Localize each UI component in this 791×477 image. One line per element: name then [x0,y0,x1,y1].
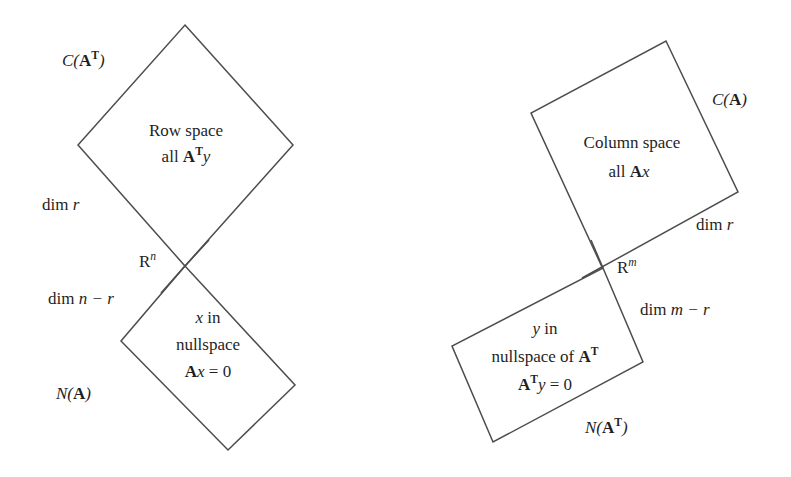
nullspace-A-line3: Ax = 0 [185,362,231,382]
row-space-shape [78,25,293,266]
left-top-shape-label: C(AT) [62,51,105,71]
left-dim-n-minus-r-label: dim n − r [48,289,114,309]
four-subspaces-figure [0,0,791,477]
nullspace-A-shape [121,266,295,450]
nullspace-A-label: N(A) [56,384,91,404]
row-space-line2: all ATy [162,147,211,167]
right-dim-r-label: dim r [696,215,733,235]
nullspace-A-line1: x in [195,308,220,328]
nullspace-A-line2: nullspace [176,335,240,355]
nullspace-AT-line1: y in [532,319,557,339]
column-space-edge-extension [582,267,602,278]
right-dim-m-minus-r-label: dim m − r [640,300,710,320]
column-space-line2: all Ax [608,162,649,182]
nullspace-AT-line3: ATy = 0 [518,375,572,395]
nullspace-AT-label: N(AT) [585,418,628,438]
row-space-edge-extension [161,266,185,293]
nullspace-A-edge-extension [185,240,209,266]
right-top-shape-label: C(A) [712,90,747,110]
left-dim-r-label: dim r [42,195,79,215]
nullspace-AT-line2: nullspace of AT [492,347,599,367]
column-space-line1: Column space [584,133,681,153]
row-space-line1: Row space [149,121,223,141]
left-center-point-label: Rn [139,252,156,272]
right-center-point-label: Rm [617,258,637,278]
nullspace-AT-edge-extension [591,240,603,268]
